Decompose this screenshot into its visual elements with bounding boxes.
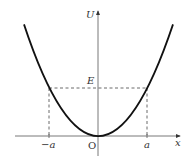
x-axis-label: x — [175, 137, 181, 148]
parabola-curve — [24, 24, 173, 136]
neg-a-tick-label: −a — [41, 139, 55, 150]
energy-label: E — [86, 75, 95, 86]
y-axis-label: U — [86, 9, 95, 20]
pos-a-tick-label: a — [144, 139, 150, 150]
origin-label: O — [88, 140, 96, 151]
potential-diagram: U E x −a a O — [0, 0, 193, 166]
